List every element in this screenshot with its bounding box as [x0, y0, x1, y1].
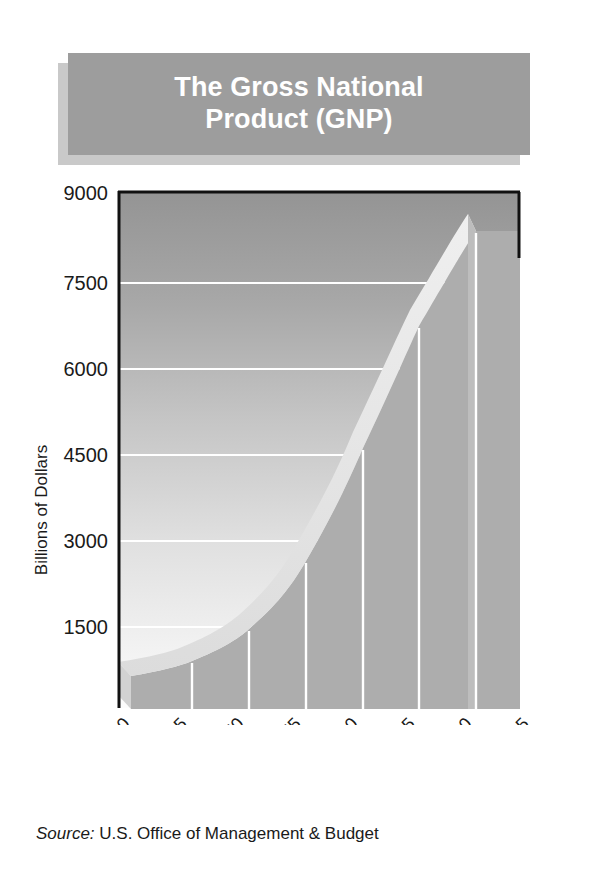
x-tick-1975: 1975	[262, 714, 304, 725]
y-tick-9000: 9000	[64, 182, 109, 204]
chart-canvas: 9000 7500 6000 4500 3000 1500 Billions o…	[0, 180, 601, 725]
x-tick-1970: 1970	[205, 714, 247, 725]
chart-title-banner: The Gross National Product (GNP)	[58, 53, 528, 165]
y-axis-title: Billions of Dollars	[32, 445, 51, 575]
source-value: U.S. Office of Management & Budget	[99, 824, 378, 843]
source-line: Source: U.S. Office of Management & Budg…	[36, 824, 379, 844]
x-tick-1965: 1965	[148, 714, 190, 725]
x-tick-1995: 1995	[490, 714, 532, 725]
y-tick-7500: 7500	[64, 272, 109, 294]
x-tick-1980: 1980	[319, 714, 361, 725]
y-tick-4500: 4500	[64, 444, 109, 466]
source-label: Source:	[36, 824, 95, 843]
title-banner-box: The Gross National Product (GNP)	[68, 53, 530, 155]
gnp-area-chart: 9000 7500 6000 4500 3000 1500 Billions o…	[0, 180, 601, 725]
x-tick-1985: 1985	[376, 714, 418, 725]
y-tick-1500: 1500	[64, 616, 109, 638]
page-title: The Gross National Product (GNP)	[174, 72, 423, 136]
y-tick-3000: 3000	[64, 530, 109, 552]
x-tick-1995-group: 1995 (est.)	[490, 714, 548, 725]
x-tick-1960: 1960	[91, 714, 133, 725]
y-axis-tick-labels: 9000 7500 6000 4500 3000 1500	[64, 182, 109, 638]
x-axis-tick-labels: 1960 1965 1970 1975 1980 1985 1990 1995 …	[91, 714, 547, 725]
x-tick-1990: 1990	[433, 714, 475, 725]
y-tick-6000: 6000	[64, 358, 109, 380]
